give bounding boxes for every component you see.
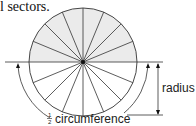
circumference-label: circumference (55, 112, 131, 126)
radius-arrow-down-icon (156, 110, 160, 115)
left-arrowhead-icon (16, 63, 20, 68)
circle-sectors-diagram: radius 1 2 circumference (0, 0, 196, 126)
fraction-numerator: 1 (48, 112, 52, 118)
right-arrowhead-icon (146, 63, 150, 68)
radius-label: radius (162, 81, 195, 95)
radius-arrow-up-icon (156, 63, 160, 68)
left-arc-arrow (18, 66, 50, 118)
center-point (81, 60, 85, 64)
fraction-denominator: 2 (48, 119, 52, 125)
